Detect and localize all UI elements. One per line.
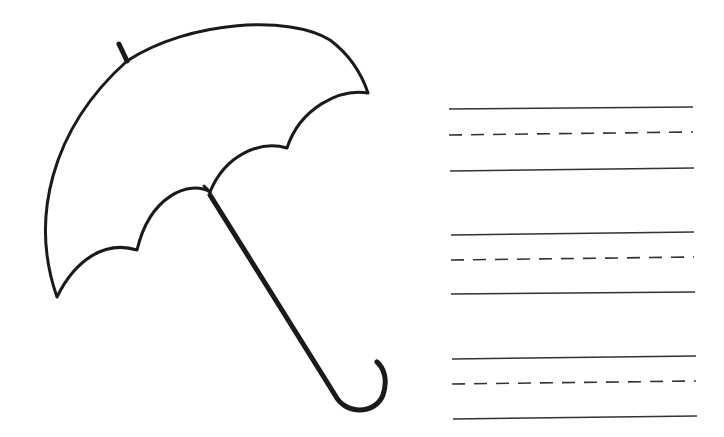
umbrella-handle	[210, 195, 385, 410]
writing-line-bottom	[451, 292, 695, 294]
writing-line-top	[452, 356, 696, 359]
writing-line-bottom	[450, 168, 694, 171]
worksheet-page: Umbrella handwriting practice worksheet	[0, 0, 724, 437]
writing-line-mid	[452, 381, 696, 384]
umbrella-icon	[46, 25, 386, 410]
writing-line-mid	[449, 132, 693, 135]
writing-line-mid	[451, 257, 694, 260]
writing-line-top	[449, 107, 693, 109]
writing-lines	[449, 107, 697, 419]
umbrella-tip	[119, 44, 127, 61]
umbrella-canopy	[46, 25, 368, 297]
writing-line-top	[451, 232, 694, 235]
writing-line-bottom	[453, 416, 697, 419]
